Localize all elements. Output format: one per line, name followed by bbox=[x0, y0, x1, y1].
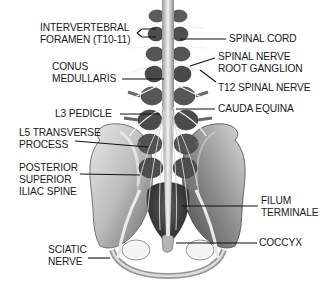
label-line: PROCESS bbox=[19, 139, 101, 151]
label-line: SCIATIC bbox=[48, 244, 87, 256]
label-filum-terminale: FILUM TERMINALE bbox=[261, 195, 318, 219]
label-sciatic-nerve: SCIATIC NERVE bbox=[48, 244, 87, 268]
label-line: SPINAL NERVE bbox=[218, 51, 303, 63]
anatomy-diagram: INTERVERTEBRAL FORAMEN (T10-11) CONUS ME… bbox=[0, 0, 335, 281]
label-line: COCCYX bbox=[259, 237, 302, 249]
label-line: INTERVERTEBRAL bbox=[40, 22, 130, 34]
label-conus-medullaris: CONUS MEDULLARIS bbox=[52, 61, 116, 85]
label-spinal-cord: SPINAL CORD bbox=[229, 33, 297, 45]
label-line: CONUS bbox=[52, 61, 116, 73]
coccyx-bone bbox=[162, 235, 174, 253]
label-line: T12 SPINAL NERVE bbox=[218, 82, 310, 94]
label-intervertebral-foramen: INTERVERTEBRAL FORAMEN (T10-11) bbox=[40, 22, 130, 46]
label-line: CAUDA EQUINA bbox=[218, 103, 294, 115]
label-line: FILUM bbox=[261, 195, 318, 207]
label-t12-spinal-nerve: T12 SPINAL NERVE bbox=[218, 82, 310, 94]
label-line: L5 TRANSVERSE bbox=[19, 127, 101, 139]
label-posterior-superior-iliac-spine: POSTERIOR SUPERIOR ILIAC SPINE bbox=[19, 162, 78, 198]
label-l5-transverse-process: L5 TRANSVERSE PROCESS bbox=[19, 127, 101, 151]
label-cauda-equina: CAUDA EQUINA bbox=[218, 103, 294, 115]
label-line: ROOT GANGLION bbox=[218, 63, 303, 75]
label-line: SPINAL CORD bbox=[229, 33, 297, 45]
label-line: POSTERIOR bbox=[19, 162, 78, 174]
label-l3-pedicle: L3 PEDICLE bbox=[55, 108, 112, 120]
label-coccyx: COCCYX bbox=[259, 237, 302, 249]
label-line: ILIAC SPINE bbox=[19, 186, 78, 198]
label-line: SUPERIOR bbox=[19, 174, 78, 186]
label-line: MEDULLARIS bbox=[52, 73, 116, 85]
label-line: L3 PEDICLE bbox=[55, 108, 112, 120]
label-line: FORAMEN (T10-11) bbox=[40, 34, 130, 46]
label-line: TERMINALE bbox=[261, 207, 318, 219]
label-spinal-nerve-root-ganglion: SPINAL NERVE ROOT GANGLION bbox=[218, 51, 303, 75]
label-line: NERVE bbox=[48, 256, 87, 268]
